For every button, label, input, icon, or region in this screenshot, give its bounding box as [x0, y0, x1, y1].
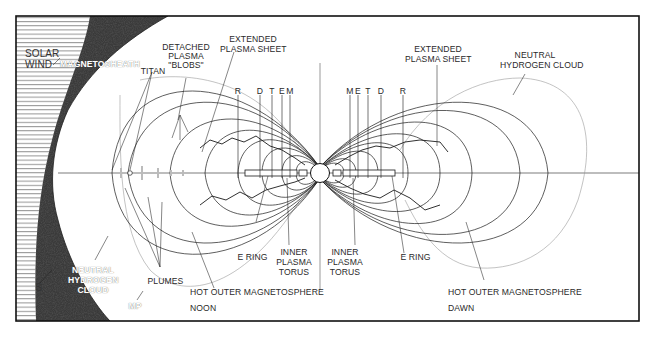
- label-extended-plasma-right-1: EXTENDED: [405, 44, 471, 54]
- label-inner-torus-left-2: PLASMA: [274, 257, 314, 267]
- label-solar-wind-1: SOLAR: [25, 48, 59, 59]
- label-neutral-hydrogen-left-2: HYDROGEN: [68, 275, 118, 285]
- label-neutral-hydrogen-left-3: CLOUD: [68, 285, 118, 295]
- label-plumes: PLUMES: [143, 276, 188, 286]
- saturn-planet: [311, 164, 330, 183]
- label-neutral-hydrogen-right-1: NEUTRAL: [500, 50, 570, 60]
- label-bow-shock: S: [34, 282, 44, 293]
- label-extended-plasma-right-2: PLASMA SHEET: [405, 54, 471, 64]
- label-inner-torus-right-2: PLASMA: [325, 257, 365, 267]
- label-moon-dione-left: D: [255, 86, 265, 96]
- label-inner-torus-right-3: TORUS: [325, 267, 365, 277]
- label-moon-rhea-right: R: [398, 86, 408, 96]
- titan-marker: [128, 171, 133, 176]
- label-inner-torus-right-1: INNER: [325, 247, 365, 257]
- label-magnetosheath: MAGNETOSHEATH: [60, 59, 140, 69]
- label-moon-rhea-left: R: [233, 86, 243, 96]
- label-moon-tethys-left: T: [267, 86, 277, 96]
- label-moon-tethys-right: T: [363, 86, 373, 96]
- label-extended-plasma-left-1: EXTENDED: [220, 34, 286, 44]
- label-extended-plasma-left-2: PLASMA SHEET: [220, 44, 286, 54]
- label-neutral-hydrogen-left-1: NEUTRAL: [68, 265, 118, 275]
- label-e-ring-right: E RING: [393, 252, 438, 262]
- label-solar-wind-2: WIND: [25, 59, 52, 70]
- label-hot-outer-right: HOT OUTER MAGNETOSPHERE: [448, 287, 582, 297]
- label-magnetopause: MP: [127, 301, 143, 311]
- label-e-ring-left: E RING: [230, 252, 275, 262]
- label-dawn: DAWN: [448, 303, 474, 313]
- label-inner-torus-left-1: INNER: [274, 247, 314, 257]
- label-moon-mimas-left: M: [285, 86, 295, 96]
- label-detached-blobs-3: "BLOBS": [161, 60, 211, 70]
- label-hot-outer-left: HOT OUTER MAGNETOSPHERE: [190, 287, 324, 297]
- label-noon: NOON: [190, 303, 216, 313]
- label-neutral-hydrogen-right-2: HYDROGEN CLOUD: [500, 60, 570, 70]
- label-moon-dione-right: D: [376, 86, 386, 96]
- label-inner-torus-left-3: TORUS: [274, 267, 314, 277]
- label-moon-enceladus-right: E: [353, 86, 363, 96]
